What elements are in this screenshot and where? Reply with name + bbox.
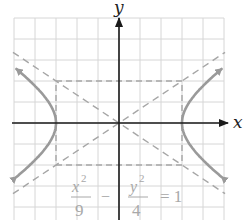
eq-equals-one: = 1 — [160, 187, 182, 206]
eq-minus: − — [101, 188, 110, 205]
eq-y-exponent: 2 — [139, 172, 145, 184]
equation-label: x 2 9 − y 2 4 = 1 — [71, 172, 182, 220]
eq-y-denominator: 4 — [132, 201, 141, 220]
eq-y-numerator: y — [128, 178, 138, 196]
eq-x-denominator: 9 — [75, 201, 84, 220]
y-axis-label: y — [113, 0, 124, 17]
eq-x-exponent: 2 — [81, 172, 87, 184]
x-axis-label: x — [233, 112, 243, 132]
axes — [12, 18, 228, 220]
eq-x-numerator: x — [71, 178, 79, 195]
hyperbola-figure: y x x 2 9 − y 2 4 = 1 — [0, 0, 244, 220]
